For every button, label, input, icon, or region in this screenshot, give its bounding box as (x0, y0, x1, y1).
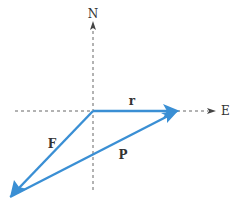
vector-P: P (10, 111, 178, 197)
north-label: N (88, 7, 99, 21)
east-arrowhead-icon (207, 108, 216, 114)
vector-r-label: r (129, 94, 136, 108)
vector-diagram: N E r F P (0, 0, 243, 210)
east-label: E (221, 104, 230, 118)
north-axis: N (88, 7, 99, 190)
vector-P-label: P (118, 148, 127, 162)
north-arrowhead-icon (90, 21, 96, 30)
vector-F-label: F (48, 137, 57, 151)
vector-F: F (10, 111, 93, 197)
